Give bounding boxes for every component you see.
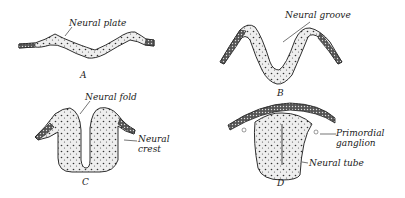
label-neural-fold: Neural fold [85,92,137,102]
label-primordial-ganglion-2: ganglion [336,138,376,148]
letter-b: B [277,88,284,98]
panel-d-neural-tube [228,103,336,180]
label-neural-plate: Neural plate [69,18,126,28]
panel-c-neural-fold [35,101,137,172]
label-primordial-ganglion-1: Primordial [336,128,384,138]
label-neural-groove: Neural groove [285,10,351,20]
panel-b-neural-groove [220,22,342,84]
letter-a: A [80,70,87,80]
label-neural-tube: Neural tube [309,158,364,168]
letter-d: D [277,178,284,188]
letter-c: C [82,177,89,187]
label-neural-crest-2: crest [138,144,161,154]
label-neural-crest-1: Neural [138,134,170,144]
neural-tube-development-diagram [0,0,405,198]
panel-a-neural-plate [19,27,154,58]
